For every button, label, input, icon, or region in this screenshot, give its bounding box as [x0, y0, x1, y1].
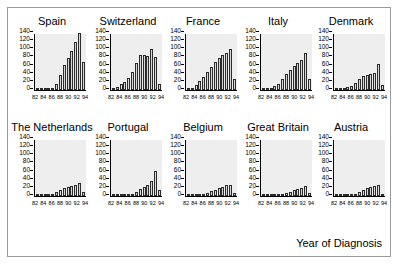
y-tick-mark — [30, 137, 33, 138]
bar — [202, 194, 205, 196]
y-tick-mark — [329, 145, 332, 146]
y-tick-label: 140 — [19, 28, 30, 35]
y-tick-mark — [30, 88, 33, 89]
bar — [281, 79, 284, 90]
bar — [191, 194, 194, 196]
bar — [289, 192, 292, 196]
y-tick-label: 80 — [23, 158, 30, 165]
bar — [135, 63, 138, 90]
y-tick-label: 120 — [19, 142, 30, 149]
bar — [146, 56, 149, 90]
bar — [67, 187, 70, 196]
bar — [308, 79, 311, 90]
bar — [139, 55, 142, 90]
y-tick-mark — [256, 170, 259, 171]
y-tick-label: 120 — [318, 36, 329, 43]
y-tick-mark — [329, 186, 332, 187]
bar — [277, 84, 280, 90]
bar — [195, 194, 198, 196]
y-tick-mark — [30, 161, 33, 162]
bar — [225, 185, 228, 196]
bar — [158, 84, 161, 90]
y-tick-label: 140 — [170, 28, 181, 35]
y-axis: 020406080100120140 — [89, 135, 109, 197]
y-axis: 020406080100120140 — [312, 29, 332, 91]
bar — [143, 55, 146, 90]
y-tick-mark — [106, 145, 109, 146]
y-tick-mark — [181, 80, 184, 81]
y-tick-mark — [30, 153, 33, 154]
bar — [266, 88, 269, 90]
bar — [377, 64, 380, 90]
figure-panel: Spain02040608010012014082848688909294Swi… — [7, 7, 391, 257]
bar — [59, 75, 62, 90]
chart-panel-spain: Spain02040608010012014082848688909294 — [14, 15, 90, 119]
y-tick-label: 20 — [99, 183, 106, 190]
bar — [123, 194, 126, 196]
chart-panel-portugal: Portugal02040608010012014082848688909294 — [90, 121, 166, 225]
y-tick-label: 20 — [249, 183, 256, 190]
y-tick-mark — [106, 88, 109, 89]
bar — [262, 88, 265, 90]
y-tick-mark — [181, 194, 184, 195]
x-tick-label: 94 — [380, 94, 389, 100]
y-tick-mark — [30, 72, 33, 73]
y-tick-mark — [106, 72, 109, 73]
bar — [362, 76, 365, 90]
x-tick-label: 94 — [81, 94, 90, 100]
bar — [304, 53, 307, 90]
y-tick-mark — [329, 80, 332, 81]
bar — [366, 75, 369, 90]
bar — [233, 193, 236, 196]
bar — [55, 84, 58, 90]
y-tick-mark — [181, 137, 184, 138]
y-tick-label: 120 — [170, 142, 181, 149]
y-tick-label: 100 — [318, 150, 329, 157]
bar — [154, 171, 157, 196]
y-tick-mark — [329, 39, 332, 40]
plot-area — [34, 34, 86, 91]
y-tick-mark — [106, 178, 109, 179]
bar — [358, 79, 361, 90]
y-tick-mark — [256, 186, 259, 187]
plot-area — [260, 140, 312, 197]
y-axis: 020406080100120140 — [13, 29, 33, 91]
small-multiples-grid: Spain02040608010012014082848688909294Swi… — [8, 8, 390, 256]
bar — [381, 85, 384, 90]
y-tick-mark — [30, 194, 33, 195]
x-axis: 82848688909294 — [34, 94, 86, 104]
y-tick-label: 100 — [170, 44, 181, 51]
bar — [36, 88, 39, 90]
y-tick-mark — [106, 47, 109, 48]
y-tick-mark — [30, 170, 33, 171]
chart-panel-france: France02040608010012014082848688909294 — [165, 15, 241, 119]
y-tick-mark — [256, 88, 259, 89]
bar — [74, 185, 77, 196]
y-tick-label: 100 — [245, 44, 256, 51]
y-tick-label: 60 — [249, 61, 256, 68]
bar — [369, 74, 372, 90]
bar — [218, 58, 221, 90]
y-tick-mark — [181, 178, 184, 179]
bar — [123, 82, 126, 90]
plot-area — [333, 34, 385, 91]
bar — [339, 194, 342, 196]
bar — [373, 186, 376, 196]
bar — [131, 194, 134, 196]
bar-series — [35, 34, 86, 90]
chart-panel-denmark: Denmark02040608010012014082848688909294 — [313, 15, 389, 119]
y-tick-label: 80 — [99, 52, 106, 59]
bar — [270, 194, 273, 196]
y-tick-label: 100 — [95, 44, 106, 51]
bar — [335, 88, 338, 90]
chart-panel-switzerland: Switzerland02040608010012014082848688909… — [90, 15, 166, 119]
y-tick-label: 40 — [23, 175, 30, 182]
plot-area — [260, 34, 312, 91]
y-tick-mark — [30, 31, 33, 32]
y-tick-label: 140 — [245, 134, 256, 141]
bar-series — [334, 34, 385, 90]
y-tick-mark — [106, 194, 109, 195]
plot-wrap: 02040608010012014082848688909294 — [110, 140, 162, 197]
y-tick-label: 60 — [99, 61, 106, 68]
bar — [354, 194, 357, 196]
